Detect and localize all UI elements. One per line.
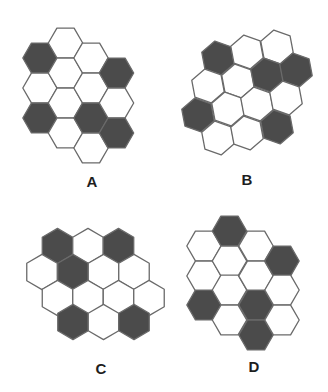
hexagon-figures-canvas: [0, 0, 328, 392]
figure-label-a: A: [87, 174, 98, 189]
figure-d-hex-group: [187, 216, 299, 350]
figure-label-d: D: [249, 359, 260, 374]
figure-label-c: C: [96, 361, 107, 376]
figure-b-hex-group: [182, 30, 312, 155]
figure-label-b: B: [242, 172, 253, 187]
figure-c-hex-group: [27, 228, 164, 339]
figure-a-hex-group: [23, 28, 134, 163]
